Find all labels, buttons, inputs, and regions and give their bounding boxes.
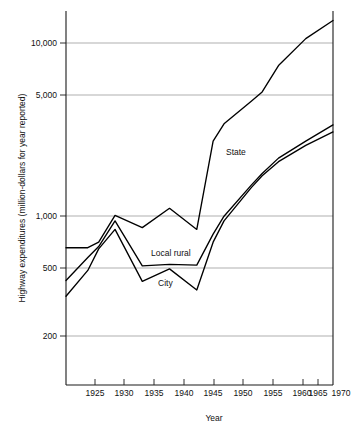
x-tick-label-1935: 1935 xyxy=(145,388,164,398)
x-tick-label-1970: 1970 xyxy=(332,388,351,398)
y-axis-title: Highway expenditures (million-dollars fo… xyxy=(17,93,27,302)
x-tick-label-1940: 1940 xyxy=(175,388,194,398)
x-tick-label-1955: 1955 xyxy=(264,388,283,398)
x-tick-label-1930: 1930 xyxy=(115,388,134,398)
series-annotation-state: State xyxy=(226,147,246,157)
x-tick-label-1945: 1945 xyxy=(204,388,223,398)
y-tick-marks xyxy=(60,43,66,336)
x-tick-label-1965: 1965 xyxy=(309,388,328,398)
plot-background xyxy=(66,11,333,385)
series-annotation-local-rural: Local rural xyxy=(151,248,191,258)
y-tick-label-10000: 10,000 xyxy=(31,38,57,48)
x-tick-label-1950: 1950 xyxy=(234,388,253,398)
chart-figure: 10,000 5,000 1,000 500 200 1925 1930 193… xyxy=(0,0,360,431)
x-tick-label-1925: 1925 xyxy=(86,388,105,398)
y-tick-label-5000: 5,000 xyxy=(36,90,58,100)
line-chart: 10,000 5,000 1,000 500 200 1925 1930 193… xyxy=(0,0,360,431)
series-annotation-city: City xyxy=(158,278,173,288)
y-tick-label-1000: 1,000 xyxy=(36,211,58,221)
x-axis-title: Year xyxy=(205,413,222,423)
y-tick-label-500: 500 xyxy=(43,263,57,273)
y-tick-label-200: 200 xyxy=(43,331,57,341)
